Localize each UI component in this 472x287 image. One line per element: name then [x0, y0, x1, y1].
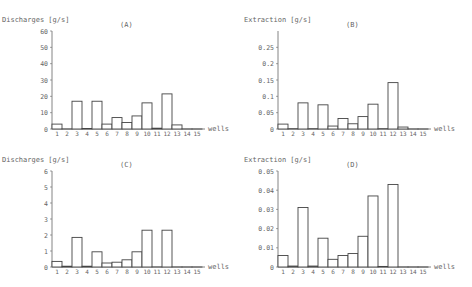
y-tick-label: 0.03 — [258, 206, 274, 214]
y-tick-label: 0.04 — [258, 187, 274, 195]
y-tick-label: 60 — [40, 28, 48, 36]
x-tick-label: 3 — [75, 130, 79, 137]
bar — [348, 124, 358, 129]
x-tick-label: 10 — [143, 130, 151, 137]
bar — [122, 122, 132, 129]
bar — [82, 266, 92, 267]
y-tick-label: 40 — [40, 60, 48, 68]
y-tick-label: 0.02 — [258, 225, 274, 233]
x-tick-label: 4 — [311, 268, 315, 275]
bar — [368, 104, 378, 129]
bar — [162, 94, 172, 129]
x-tick-label: 14 — [409, 268, 417, 275]
x-tick-label: 3 — [301, 268, 305, 275]
bar — [318, 105, 328, 129]
y-tick-label: 5 — [44, 184, 48, 192]
x-tick-label: 6 — [105, 130, 109, 137]
bar — [358, 117, 368, 129]
bar — [398, 127, 408, 129]
x-tick-label: 10 — [369, 268, 377, 275]
x-tick-label: 12 — [389, 130, 397, 137]
x-tick-label: 7 — [115, 130, 119, 137]
x-tick-label: 5 — [95, 130, 99, 137]
x-tick-label: 1 — [281, 268, 285, 275]
x-tick-label: 13 — [399, 268, 407, 275]
panel-title: (D) — [346, 161, 359, 169]
bar — [102, 124, 112, 129]
x-tick-label: 9 — [361, 130, 365, 137]
x-tick-label: 13 — [173, 130, 181, 137]
y-tick-label: 50 — [40, 44, 48, 52]
bar — [102, 263, 112, 267]
x-tick-label: 9 — [135, 268, 139, 275]
bar — [388, 83, 398, 129]
bar — [162, 230, 172, 267]
y-tick-label: 0.01 — [258, 244, 274, 252]
x-tick-label: 11 — [153, 268, 161, 275]
x-tick-label: 15 — [419, 130, 427, 137]
bar — [278, 255, 288, 267]
y-tick-label: 0.05 — [258, 109, 274, 117]
x-tick-label: 8 — [125, 268, 129, 275]
x-tick-label: 8 — [351, 268, 355, 275]
bar — [62, 266, 72, 267]
y-tick-label: 1 — [44, 248, 48, 256]
bar — [132, 116, 142, 129]
y-tick-label: 0 — [44, 264, 48, 272]
bar — [348, 254, 358, 267]
x-tick-label: 3 — [75, 268, 79, 275]
chart-panel-b: Extraction [g/s](B)00.050.10.150.20.2512… — [236, 0, 472, 144]
x-tick-label: 2 — [291, 268, 295, 275]
x-tick-label: 12 — [163, 268, 171, 275]
x-tick-label: 5 — [321, 268, 325, 275]
y-tick-label: 6 — [44, 168, 48, 176]
chart-panel-a: Discharges [g/s](A)010203040506012345678… — [0, 0, 236, 144]
x-tick-label: 4 — [85, 130, 89, 137]
bar — [358, 236, 368, 267]
x-tick-label: 2 — [291, 130, 295, 137]
x-tick-label: 6 — [331, 130, 335, 137]
y-tick-label: 0.15 — [258, 77, 274, 85]
bar — [298, 103, 308, 129]
x-tick-label: 9 — [135, 130, 139, 137]
panel-title: (B) — [346, 21, 359, 29]
x-tick-label: 1 — [55, 268, 59, 275]
x-tick-label: 4 — [311, 130, 315, 137]
x-tick-label: 1 — [281, 130, 285, 137]
x-tick-label: 13 — [399, 130, 407, 137]
panel-title: (C) — [120, 161, 133, 169]
x-tick-label: 14 — [183, 130, 191, 137]
bar — [122, 260, 132, 267]
x-axis-label: wells — [434, 263, 455, 271]
x-tick-label: 11 — [153, 130, 161, 137]
bar — [278, 124, 288, 129]
x-tick-label: 9 — [361, 268, 365, 275]
bar — [368, 196, 378, 267]
y-tick-label: 2 — [44, 232, 48, 240]
x-tick-label: 12 — [163, 130, 171, 137]
y-tick-label: 0.05 — [258, 168, 274, 176]
x-tick-label: 6 — [105, 268, 109, 275]
x-tick-label: 14 — [409, 130, 417, 137]
x-tick-label: 1 — [55, 130, 59, 137]
chart-panel-d: Extraction [g/s](D)00.010.020.030.040.05… — [236, 140, 472, 287]
y-tick-label: 30 — [40, 77, 48, 85]
x-tick-label: 7 — [341, 268, 345, 275]
panel-title: (A) — [120, 21, 133, 29]
bar — [328, 259, 338, 267]
x-tick-label: 11 — [379, 268, 387, 275]
x-tick-label: 3 — [301, 130, 305, 137]
x-tick-label: 2 — [65, 130, 69, 137]
bar — [298, 207, 308, 267]
x-axis-label: wells — [208, 263, 229, 271]
bar — [288, 266, 298, 267]
y-tick-label: 0.1 — [262, 93, 274, 101]
y-axis-label: Extraction [g/s] — [244, 16, 311, 24]
bar — [132, 252, 142, 267]
y-tick-label: 4 — [44, 200, 48, 208]
bar — [92, 252, 102, 267]
bar — [378, 266, 388, 267]
y-axis-label: Discharges [g/s] — [2, 156, 69, 164]
x-tick-label: 5 — [95, 268, 99, 275]
bar — [52, 261, 62, 267]
